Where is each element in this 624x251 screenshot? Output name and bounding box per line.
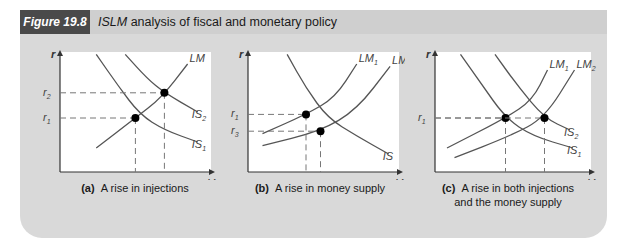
origin-label: O <box>36 178 45 180</box>
curve-label-lm: LM <box>190 52 206 64</box>
panel-a-caption-tag: (a) <box>81 182 94 194</box>
y-axis-label: r <box>426 48 431 60</box>
equilibrium-point <box>541 114 549 122</box>
equilibrium-point <box>160 89 168 97</box>
x-axis-label: Y <box>587 177 596 180</box>
panel-a-caption: (a) A rise in injections <box>60 181 210 195</box>
figure-title-italic: ISLM <box>98 15 127 29</box>
figure-label: Figure 19.8 <box>20 10 90 34</box>
panel-b-caption: (b) A rise in money supply <box>240 181 400 195</box>
x-axis-arrow-icon <box>589 169 595 175</box>
y-axis-label: r <box>239 48 244 60</box>
figure-title-rest: analysis of fiscal and monetary policy <box>127 15 337 29</box>
y-tick-label: r2 <box>43 86 51 100</box>
equilibrium-point <box>131 114 139 122</box>
x-tick-label: Y2 <box>159 178 170 180</box>
origin-label: O <box>224 178 233 180</box>
equilibrium-point <box>302 110 310 118</box>
panel-c-chart: OYrIS1IS2LM1LM2Y1r1Y4 <box>397 40 597 180</box>
panel-c-caption-line2: and the money supply <box>454 196 562 208</box>
equilibrium-point <box>317 127 325 135</box>
panel-c-caption-tag: (c) <box>442 182 455 194</box>
x-tick-label: Y3 <box>315 178 326 180</box>
panel-c-caption-text: A rise in both injections <box>462 182 575 194</box>
curve-label-lm2: LM2 <box>577 58 596 72</box>
y-tick-label: r1 <box>43 111 51 125</box>
curve-label-is: IS <box>383 150 394 162</box>
panel-b-caption-text: A rise in money supply <box>275 182 385 194</box>
y-tick-label: r1 <box>418 111 426 125</box>
panel-a-caption-text: A rise in injections <box>101 182 189 194</box>
panel-b-chart: OYrISLM1LM2Y1r1Y3r3 <box>210 40 405 180</box>
figure-title: ISLM analysis of fiscal and monetary pol… <box>98 10 337 34</box>
x-tick-label: Y4 <box>539 178 550 180</box>
panel-a-chart: OYrIS1IS2LMY1r1Y2r2 <box>22 40 217 180</box>
origin-label: O <box>411 178 420 180</box>
panel-c-caption: (c) A rise in both injectionsand the mon… <box>428 181 588 209</box>
x-tick-label: Y1 <box>300 178 311 180</box>
x-tick-label: Y1 <box>500 178 511 180</box>
y-axis-label: r <box>51 48 56 60</box>
x-tick-label: Y1 <box>130 178 141 180</box>
y-tick-label: r1 <box>231 107 239 121</box>
y-tick-label: r3 <box>231 124 239 138</box>
panel-b-caption-tag: (b) <box>255 182 269 194</box>
